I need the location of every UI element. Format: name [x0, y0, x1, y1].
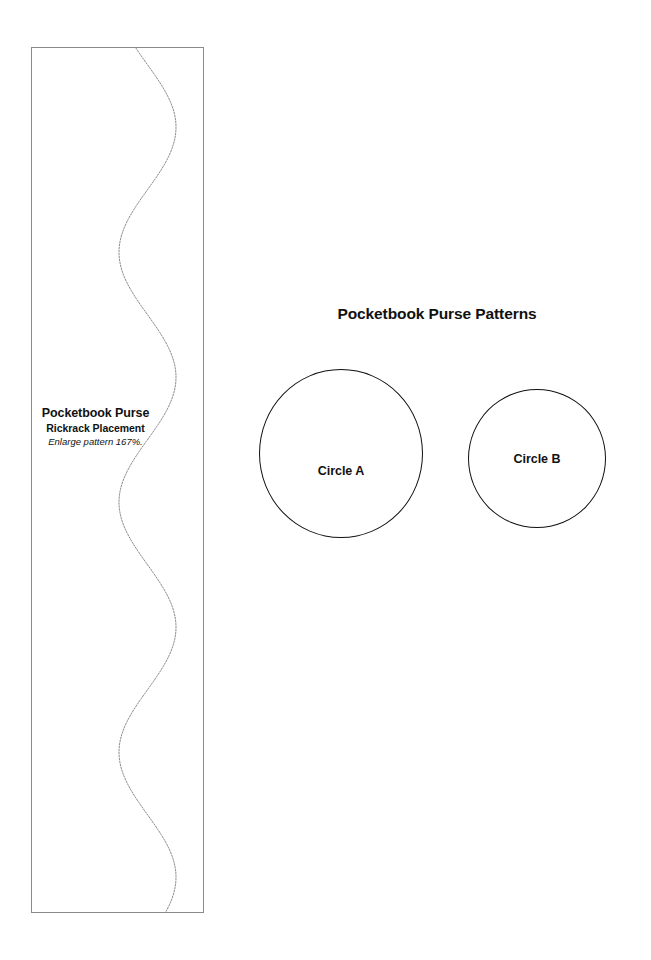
rickrack-strip-label: Pocketbook Purse Rickrack Placement Enla… [32, 406, 159, 447]
strip-label-line3: Enlarge pattern 167%. [32, 436, 159, 447]
rickrack-placement-strip: Pocketbook Purse Rickrack Placement Enla… [31, 47, 204, 913]
rickrack-wave-icon [32, 48, 203, 912]
strip-label-line1: Pocketbook Purse [32, 406, 159, 421]
pattern-sheet-page: Pocketbook Purse Rickrack Placement Enla… [0, 0, 651, 960]
strip-label-line2: Rickrack Placement [32, 422, 159, 434]
pattern-circle-a-label: Circle A [318, 464, 364, 478]
pattern-circle-b-label: Circle B [514, 452, 561, 466]
patterns-title: Pocketbook Purse Patterns [287, 305, 587, 323]
pattern-circle-b: Circle B [468, 389, 606, 528]
pattern-circle-a: Circle A [259, 369, 423, 538]
